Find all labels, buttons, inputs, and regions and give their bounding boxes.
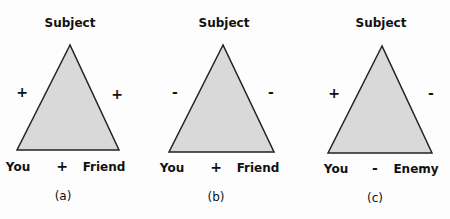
- triangle-a: [17, 45, 119, 150]
- caption-b: (b): [208, 190, 225, 204]
- apex-label-b: Subject: [199, 16, 250, 30]
- right-label-c: Enemy: [393, 162, 438, 176]
- left-label-b: You: [160, 161, 184, 175]
- triangles: [0, 0, 450, 219]
- right-sign-c: -: [428, 85, 434, 101]
- apex-label-a: Subject: [45, 16, 96, 30]
- left-sign-c: +: [328, 85, 340, 101]
- triangle-c: [328, 46, 432, 153]
- base-sign-b: +: [210, 159, 222, 175]
- left-label-c: You: [324, 162, 348, 176]
- right-sign-b: -: [268, 84, 274, 100]
- triangle-b: [169, 45, 274, 152]
- apex-label-c: Subject: [356, 16, 407, 30]
- left-sign-b: -: [172, 84, 178, 100]
- caption-c: (c): [367, 191, 383, 205]
- left-sign-a: +: [16, 84, 28, 100]
- base-sign-a: +: [56, 158, 68, 174]
- right-label-b: Friend: [237, 161, 280, 175]
- left-label-a: You: [6, 160, 30, 174]
- caption-a: (a): [55, 189, 72, 203]
- base-sign-c: -: [372, 160, 378, 176]
- right-sign-a: +: [111, 86, 123, 102]
- right-label-a: Friend: [83, 160, 126, 174]
